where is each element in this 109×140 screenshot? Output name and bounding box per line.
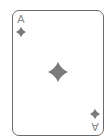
top-left-index: A [15,14,27,37]
rank-label-inverted: A [91,121,98,132]
bottom-right-index: A [89,109,101,132]
rank-label: A [17,14,24,25]
playing-card-ace-of-diamonds[interactable]: A A [12,10,104,136]
center-diamond-icon [48,62,68,82]
diamond-icon [90,109,100,119]
diamond-icon [16,27,26,37]
